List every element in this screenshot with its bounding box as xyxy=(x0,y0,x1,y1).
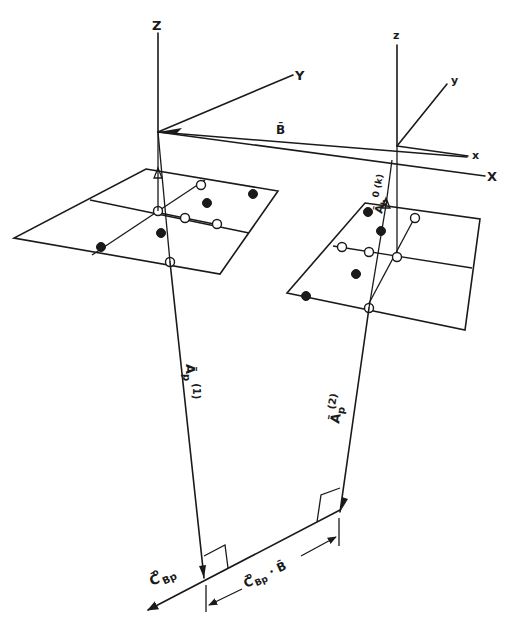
stereo-vector-diagram: Z Y X B̄ z y x xyxy=(0,0,508,624)
local-y-axis xyxy=(397,84,447,146)
point-marker xyxy=(411,214,420,223)
left-plane-fiducial-h xyxy=(90,200,249,233)
global-y-axis xyxy=(158,75,293,132)
global-axes: Z Y X B̄ xyxy=(152,18,497,184)
point-marker xyxy=(203,199,212,208)
left-image-ray xyxy=(158,132,170,262)
label-local-x: x xyxy=(472,149,479,162)
right-angle-marker-left xyxy=(204,545,228,568)
point-marker xyxy=(365,248,374,257)
point-marker xyxy=(157,229,166,238)
label-global-z: Z xyxy=(152,18,161,33)
label-global-y: Y xyxy=(294,68,305,83)
local-axes: z y x xyxy=(393,29,479,258)
point-marker xyxy=(352,270,361,279)
label-local-z: z xyxy=(393,29,399,42)
dimension-arrow-left xyxy=(209,589,242,605)
right-angle-marker-right xyxy=(317,488,340,522)
dimension-arrow-right xyxy=(301,537,336,556)
point-marker xyxy=(302,292,311,301)
label-projection: C̄oBp · B̄ xyxy=(240,556,289,593)
point-marker xyxy=(213,220,222,229)
left-plane-outline xyxy=(14,169,278,274)
label-baseline-b: B̄ xyxy=(276,122,285,137)
right-plane-fiducial-v xyxy=(367,217,415,307)
ray-ap1 xyxy=(170,262,204,578)
right-ab0-ray xyxy=(386,160,392,205)
right-photo-plane xyxy=(287,160,480,330)
point-marker xyxy=(393,253,402,262)
label-local-y: y xyxy=(451,74,458,87)
svg-text:Āp(2): Āp(2) xyxy=(323,392,349,425)
label-global-x: X xyxy=(487,169,497,184)
left-photo-plane xyxy=(14,132,278,274)
cbp-vector xyxy=(148,510,340,610)
point-marker xyxy=(364,208,373,217)
point-marker xyxy=(197,181,206,190)
ap1-arrow-icon xyxy=(199,565,206,578)
point-marker xyxy=(249,190,258,199)
svg-text:C̄oBp · B̄: C̄oBp · B̄ xyxy=(240,556,289,593)
right-plane-fiducial-h xyxy=(333,246,472,268)
svg-text:C̄oBp: C̄oBp xyxy=(145,560,178,591)
point-marker xyxy=(97,243,106,252)
label-cbp: C̄oBp xyxy=(145,560,178,591)
label-ap2: Āp(2) xyxy=(323,392,349,425)
point-marker xyxy=(181,214,190,223)
point-marker xyxy=(338,243,347,252)
